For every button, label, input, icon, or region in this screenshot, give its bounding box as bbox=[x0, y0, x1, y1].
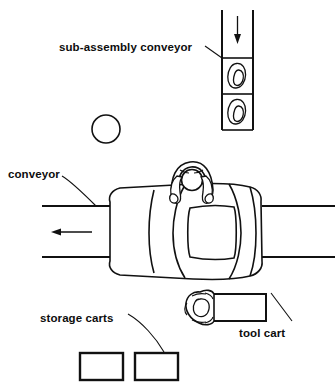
sub-assembly-part-lower bbox=[228, 99, 246, 124]
assembly-line-diagram: sub-assembly conveyor conveyor storage c… bbox=[0, 0, 335, 390]
sub-assembly-flow-arrow-icon bbox=[234, 16, 241, 44]
storage-cart-left bbox=[80, 353, 123, 380]
leader-line-sub-assembly-conveyor bbox=[205, 46, 222, 58]
leader-line-tool-cart bbox=[271, 293, 292, 321]
label-tool-cart: tool cart bbox=[239, 327, 285, 339]
leader-line-conveyor bbox=[62, 176, 96, 206]
assembly-worker-left-hand bbox=[170, 194, 178, 203]
main-conveyor-flow-arrow-icon bbox=[51, 229, 92, 236]
sub-assembly-part-upper bbox=[228, 63, 246, 88]
car-body bbox=[109, 184, 262, 280]
sub-assembly-conveyor-track bbox=[222, 10, 253, 130]
label-storage-carts: storage carts bbox=[40, 312, 114, 324]
tool-cart-worker-head bbox=[193, 299, 209, 317]
floor-marker-circle bbox=[92, 115, 120, 143]
assembly-worker-right-hand bbox=[205, 194, 213, 203]
leader-line-storage-carts bbox=[128, 314, 164, 352]
storage-carts bbox=[80, 353, 178, 380]
storage-cart-right bbox=[135, 353, 178, 380]
label-sub-assembly-conveyor: sub-assembly conveyor bbox=[59, 41, 193, 53]
label-conveyor: conveyor bbox=[8, 168, 60, 180]
diagram-page: sub-assembly conveyor conveyor storage c… bbox=[0, 0, 335, 390]
tool-cart-assembly bbox=[185, 290, 266, 324]
tool-cart-body bbox=[212, 294, 266, 321]
